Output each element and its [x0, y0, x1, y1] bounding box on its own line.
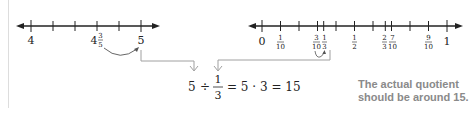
eq-frac-num: 1	[215, 73, 222, 86]
label-9-10-num: 9	[426, 34, 430, 42]
arrow-left-icon	[248, 23, 256, 29]
eq-frac-den: 3	[215, 89, 222, 102]
right-number-line: 0 1 10 3 10 1 3 1 2 2 3 7 10 9 10 1	[248, 20, 463, 57]
label-1-10-den: 10	[276, 43, 285, 51]
label-2-3-num: 2	[382, 34, 386, 42]
arrow-right-icon	[455, 23, 463, 29]
label-1-2-num: 1	[352, 34, 356, 42]
label-3-10-den: 10	[312, 43, 321, 51]
arrow-right-icon	[152, 23, 160, 29]
label-0: 0	[259, 35, 266, 48]
arrow-left-icon	[16, 23, 24, 29]
left-number-line: 4 4 3 5 5	[16, 20, 160, 55]
label-5: 5	[138, 34, 145, 47]
equation: 5 ÷ 1 3 = 5 · 3 = 15	[188, 73, 301, 102]
label-4: 4	[28, 34, 35, 47]
label-4-3-5-num: 3	[98, 32, 102, 40]
label-9-10-den: 10	[424, 43, 433, 51]
label-3-10-num: 3	[314, 34, 318, 42]
eq-rest: = 5 · 3 = 15	[227, 80, 301, 94]
label-2-3-den: 3	[382, 43, 386, 51]
label-4-3-5-whole: 4	[91, 34, 98, 47]
eq-div-sign: ÷	[200, 80, 210, 94]
label-1-2-den: 2	[352, 43, 356, 51]
label-1-3-den: 3	[322, 43, 326, 51]
note-text: The actual quotient should be around 15.	[358, 78, 475, 104]
curved-arrow	[104, 48, 137, 55]
label-1: 1	[444, 35, 451, 48]
label-1-10-num: 1	[278, 34, 282, 42]
label-7-10-den: 10	[388, 43, 397, 51]
eq-dividend: 5	[188, 80, 196, 94]
curved-arrow-small	[315, 51, 324, 57]
connectors	[141, 50, 330, 71]
curved-arrowhead-icon	[134, 47, 139, 52]
label-4-3-5-den: 5	[98, 41, 102, 49]
label-7-10-num: 7	[390, 34, 394, 42]
label-1-3-num: 1	[322, 34, 326, 42]
